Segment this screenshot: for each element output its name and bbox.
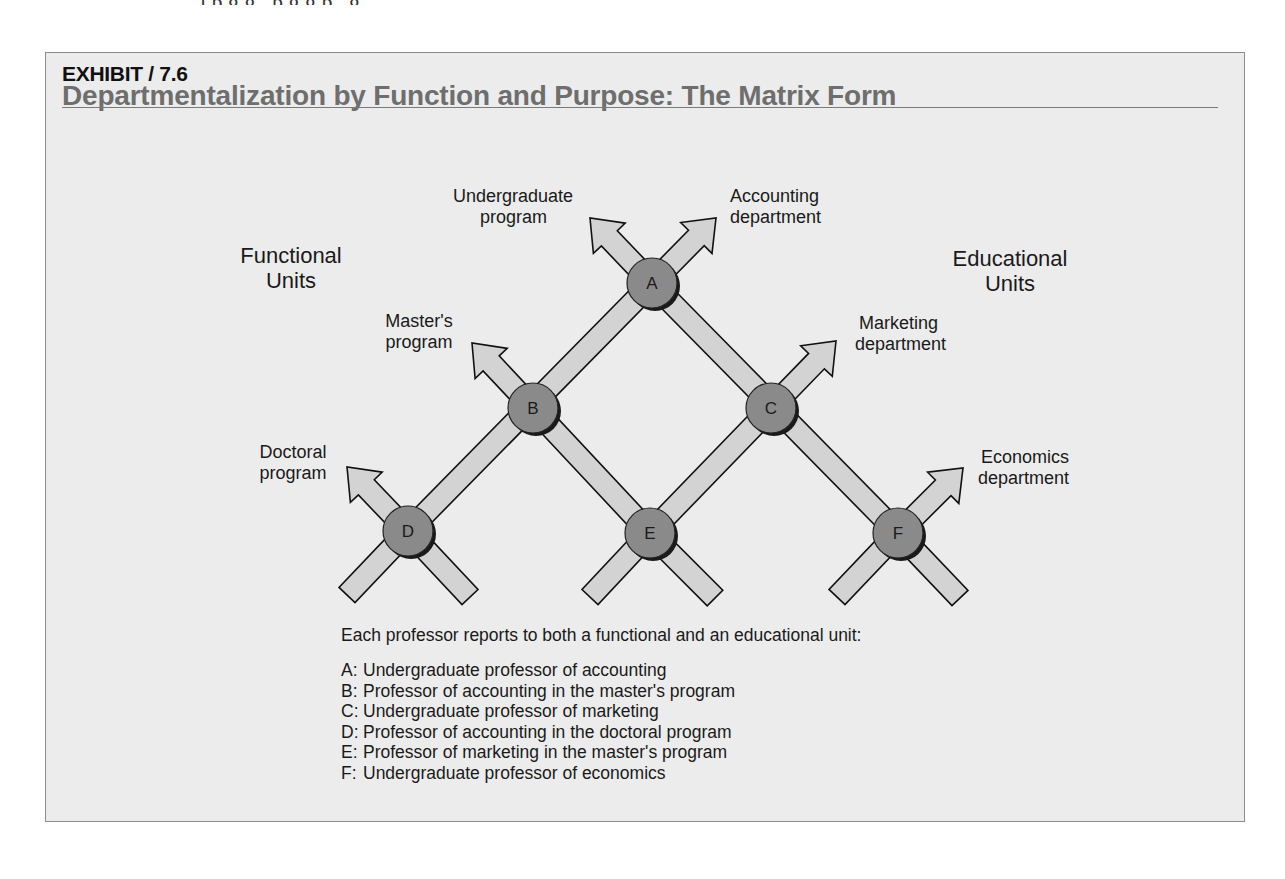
label-line: program [430, 207, 573, 228]
label-economics-department: Economics department [978, 447, 1069, 489]
label-masters-program: Master's program [374, 311, 464, 353]
matrix-nodes: ABCDEF [383, 258, 926, 561]
node-label: D [402, 522, 414, 541]
node-label: C [765, 399, 777, 418]
node-label: A [646, 274, 658, 293]
label-line: program [374, 332, 464, 353]
legend-key: F: [341, 763, 363, 784]
functional-units-heading: Functional Units [236, 243, 346, 293]
legend-item-e: E:Professor of marketing in the master's… [341, 742, 861, 763]
legend-item-d: D:Professor of accounting in the doctora… [341, 722, 861, 743]
label-doctoral-program: Doctoral program [252, 442, 334, 484]
heading-line: Educational [940, 246, 1080, 271]
label-accounting-department: Accounting department [730, 186, 821, 228]
label-line: Marketing [855, 313, 946, 334]
label-line: program [252, 463, 334, 484]
legend-text: Undergraduate professor of marketing [363, 701, 659, 721]
legend-key: A: [341, 660, 363, 681]
legend-text: Undergraduate professor of accounting [363, 660, 667, 680]
label-marketing-department: Marketing department [855, 313, 946, 355]
label-line: Undergraduate [430, 186, 573, 207]
legend-key: B: [341, 681, 363, 702]
label-line: Accounting [730, 186, 821, 207]
legend-item-c: C:Undergraduate professor of marketing [341, 701, 861, 722]
educational-units-heading: Educational Units [940, 246, 1080, 296]
legend-key: D: [341, 722, 363, 743]
legend-key: C: [341, 701, 363, 722]
legend-text: Undergraduate professor of economics [363, 763, 666, 783]
label-line: Master's [374, 311, 464, 332]
heading-line: Units [236, 268, 346, 293]
node-label: F [893, 524, 903, 543]
legend-item-a: A:Undergraduate professor of accounting [341, 660, 861, 681]
legend-intro: Each professor reports to both a functio… [341, 625, 861, 646]
legend: Each professor reports to both a functio… [341, 625, 861, 783]
legend-key: E: [341, 742, 363, 763]
legend-text: Professor of marketing in the master's p… [363, 742, 727, 762]
label-line: Economics [978, 447, 1069, 468]
heading-line: Units [940, 271, 1080, 296]
legend-item-b: B:Professor of accounting in the master'… [341, 681, 861, 702]
label-line: department [978, 468, 1069, 489]
heading-line: Functional [236, 243, 346, 268]
label-undergraduate-program: Undergraduate program [430, 186, 573, 228]
legend-text: Professor of accounting in the doctoral … [363, 722, 732, 742]
legend-item-f: F:Undergraduate professor of economics [341, 763, 861, 784]
legend-text: Professor of accounting in the master's … [363, 681, 735, 701]
node-label: B [527, 399, 538, 418]
label-line: Doctoral [252, 442, 334, 463]
label-line: department [855, 334, 946, 355]
node-label: E [644, 524, 655, 543]
label-line: department [730, 207, 821, 228]
